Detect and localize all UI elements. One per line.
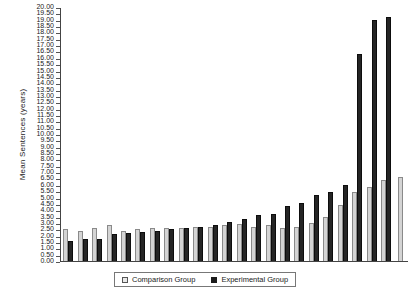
bar-group	[133, 8, 147, 261]
bar-group	[263, 8, 277, 261]
bar-chart-figure: Mean Sentences (years) 20.0019.5019.0018…	[0, 0, 416, 297]
bar-experimental	[343, 185, 348, 261]
filled-square-icon	[211, 277, 217, 283]
open-square-icon	[122, 277, 128, 283]
bar-experimental	[184, 228, 189, 261]
y-axis-tick-label: 0.00	[40, 257, 54, 264]
bar-comparison	[398, 177, 403, 261]
bar-experimental	[328, 192, 333, 261]
bar-group	[177, 8, 191, 261]
bar-experimental	[213, 225, 218, 261]
legend-label-experimental: Experimental Group	[221, 275, 288, 284]
bar-experimental	[97, 239, 102, 261]
bar-experimental	[112, 234, 117, 261]
legend-entry-comparison: Comparison Group	[122, 275, 195, 284]
bar-group	[393, 8, 407, 261]
bar-experimental	[83, 239, 88, 261]
legend-label-comparison: Comparison Group	[132, 275, 195, 284]
bar-experimental	[372, 20, 377, 261]
bar-group	[148, 8, 162, 261]
bar-experimental	[285, 206, 290, 261]
bar-group	[206, 8, 220, 261]
y-axis-tick-mark	[56, 262, 60, 263]
bar-experimental	[227, 222, 232, 261]
bar-group	[104, 8, 118, 261]
bar-experimental	[242, 219, 247, 261]
bar-experimental	[126, 233, 131, 261]
bar-group	[278, 8, 292, 261]
bar-group	[249, 8, 263, 261]
bar-group	[220, 8, 234, 261]
bar-group	[61, 8, 75, 261]
bar-series-group	[61, 8, 408, 261]
legend-entry-experimental: Experimental Group	[211, 275, 288, 284]
bar-experimental	[140, 232, 145, 261]
bar-group	[365, 8, 379, 261]
bar-experimental	[299, 203, 304, 261]
bar-group	[350, 8, 364, 261]
bar-group	[234, 8, 248, 261]
bar-experimental	[256, 215, 261, 261]
bar-group	[75, 8, 89, 261]
bar-experimental	[155, 231, 160, 261]
bar-experimental	[169, 229, 174, 261]
bar-group	[336, 8, 350, 261]
bar-group	[307, 8, 321, 261]
bar-group	[119, 8, 133, 261]
bar-experimental	[386, 17, 391, 261]
bar-experimental	[314, 195, 319, 261]
chart-legend: Comparison Group Experimental Group	[114, 272, 296, 287]
bar-experimental	[357, 54, 362, 261]
bar-group	[191, 8, 205, 261]
bar-group	[292, 8, 306, 261]
y-axis-tick-group: 20.0019.5019.0018.5018.0017.5017.0016.50…	[0, 8, 60, 262]
bar-group	[321, 8, 335, 261]
bar-experimental	[198, 227, 203, 261]
bar-experimental	[271, 214, 276, 261]
bar-group	[379, 8, 393, 261]
bar-group	[162, 8, 176, 261]
bar-group	[90, 8, 104, 261]
bar-experimental	[68, 241, 73, 261]
